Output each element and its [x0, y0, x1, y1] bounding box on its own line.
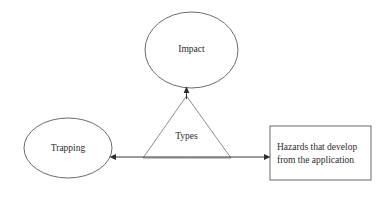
- node-trapping[interactable]: Trapping: [24, 118, 112, 178]
- hazards-rect-shape: [270, 126, 371, 180]
- types-to-hazards-arrowhead-icon: [264, 154, 271, 160]
- connector-types-to-trapping: [110, 154, 187, 160]
- types-triangle-shape: [143, 96, 231, 158]
- diagram-canvas: Impact Trapping Hazards that develop fro…: [0, 0, 389, 198]
- node-types[interactable]: Types: [143, 96, 231, 158]
- hazards-label-line-1: Hazards that develop: [277, 142, 357, 152]
- types-label: Types: [175, 131, 198, 141]
- hazards-label-line-2: from the application: [277, 155, 354, 165]
- trapping-label: Trapping: [51, 143, 86, 153]
- node-impact[interactable]: Impact: [145, 12, 238, 88]
- impact-label: Impact: [178, 44, 205, 54]
- diagram-svg: Impact Trapping Hazards that develop fro…: [0, 0, 389, 198]
- node-hazards[interactable]: Hazards that develop from the applicatio…: [270, 126, 371, 180]
